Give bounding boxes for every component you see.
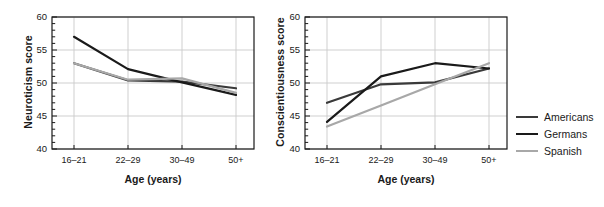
- figure-two-line-charts: Neuroticism score 60 55 50 45 40 16–21 2…: [0, 0, 604, 207]
- x-tick-label: 22–29: [355, 155, 407, 165]
- x-tick-label: 50+: [463, 155, 515, 165]
- x-tick-label: 16–21: [48, 155, 100, 165]
- legend-item-germans: Germans: [516, 125, 602, 142]
- legend-item-americans: Americans: [516, 108, 602, 125]
- chart-panel-neuroticism: Neuroticism score 60 55 50 45 40 16–21 2…: [0, 0, 290, 207]
- x-axis-label-neuroticism: Age (years): [52, 173, 254, 185]
- chart-panel-conscientiousness: Conscientiousness score 60 55 50 45 40 1…: [258, 0, 518, 207]
- x-tick-label: 30–49: [409, 155, 461, 165]
- x-tick-label: 30–49: [156, 155, 208, 165]
- legend-label: Germans: [544, 128, 587, 140]
- x-tick-label: 22–29: [102, 155, 154, 165]
- x-tick-label: 50+: [210, 155, 262, 165]
- x-axis-label-conscientiousness: Age (years): [305, 173, 507, 185]
- legend-swatch-icon: [516, 150, 538, 152]
- x-tick-label: 16–21: [301, 155, 353, 165]
- legend-swatch-icon: [516, 133, 538, 135]
- legend-item-spanish: Spanish: [516, 142, 602, 159]
- legend-swatch-icon: [516, 116, 538, 118]
- legend-label: Spanish: [544, 145, 582, 157]
- chart-legend: Americans Germans Spanish: [516, 108, 602, 159]
- legend-label: Americans: [544, 111, 594, 123]
